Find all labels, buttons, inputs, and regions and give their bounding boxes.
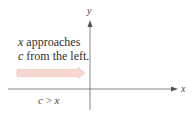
y-axis-label: y [87,6,91,16]
caption-line-2-text: from the left. [23,49,89,63]
approach-right-arrow-icon [17,68,85,79]
caption-line-1: x approaches [18,35,89,49]
x-axis-arrowhead-icon [171,87,178,92]
inequality-label: c > x [38,94,60,106]
caption-text: x approaches c from the left. [18,35,89,63]
inequality-operator: > [43,94,55,106]
y-axis-arrowhead-icon [88,20,93,27]
caption-line-2: c from the left. [18,49,89,63]
limit-from-left-diagram: y x x approaches c from the left. c > x [0,0,195,115]
x-axis-label: x [181,84,185,94]
caption-line-1-text: approaches [23,35,80,49]
inequality-right: x [55,94,60,106]
